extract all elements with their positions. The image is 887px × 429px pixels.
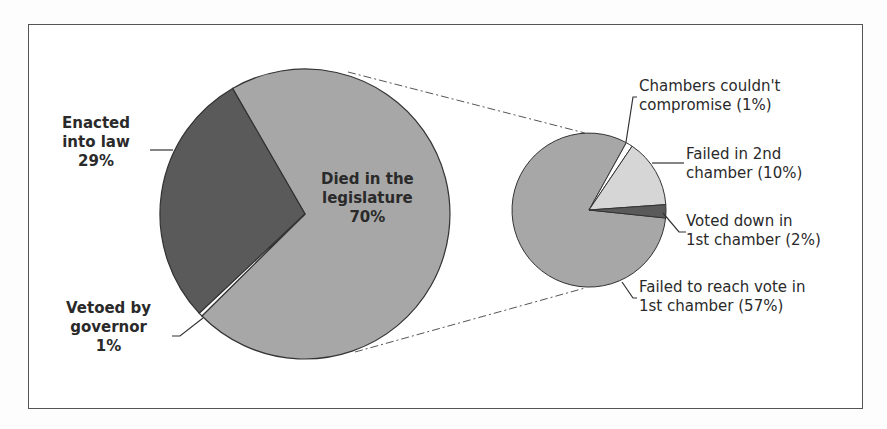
label-failed-reach-line2: 1st chamber (57%) [639, 297, 806, 316]
label-vetoed: Vetoed by governor 1% [66, 299, 151, 356]
label-failed-2nd-line1: Failed in 2nd [686, 145, 802, 164]
label-chambers-line1: Chambers couldn't [639, 77, 780, 96]
label-chambers-line2: compromise (1%) [639, 96, 780, 115]
label-enacted-line1: Enacted [62, 114, 130, 133]
label-enacted-line2: into law [62, 133, 130, 152]
label-failed-reach: Failed to reach vote in 1st chamber (57%… [639, 278, 806, 316]
label-voted-down: Voted down in 1st chamber (2%) [686, 212, 821, 250]
label-chambers: Chambers couldn't compromise (1%) [639, 77, 780, 115]
label-enacted-value: 29% [62, 152, 130, 171]
breakdown-pie [512, 133, 666, 287]
label-vetoed-value: 1% [66, 337, 151, 356]
label-enacted: Enacted into law 29% [62, 114, 130, 171]
label-died-line2: legislature [321, 189, 414, 208]
label-died-value: 70% [321, 208, 414, 227]
label-voted-down-line1: Voted down in [686, 212, 821, 231]
label-vetoed-line2: governor [66, 318, 151, 337]
label-voted-down-line2: 1st chamber (2%) [686, 231, 821, 250]
label-vetoed-line1: Vetoed by [66, 299, 151, 318]
label-failed-2nd: Failed in 2nd chamber (10%) [686, 145, 802, 183]
label-failed-reach-line1: Failed to reach vote in [639, 278, 806, 297]
label-failed-2nd-line2: chamber (10%) [686, 164, 802, 183]
label-died: Died in the legislature 70% [321, 170, 414, 227]
label-died-line1: Died in the [321, 170, 414, 189]
